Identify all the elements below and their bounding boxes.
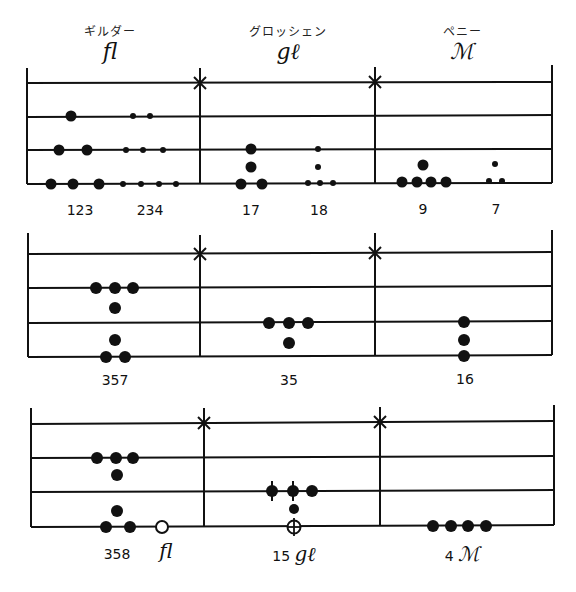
value-label: fl bbox=[126, 539, 206, 563]
groschen-unit-symbol: gℓ bbox=[295, 542, 316, 566]
value-label: 234 bbox=[110, 202, 190, 218]
value-label: 15 gℓ bbox=[254, 542, 334, 566]
value-label: 123 bbox=[40, 202, 120, 218]
value-label: 9 bbox=[383, 201, 463, 217]
value-label: 18 bbox=[279, 202, 359, 218]
open-counter-icon bbox=[156, 521, 168, 533]
counting-boards-diagram bbox=[0, 0, 576, 592]
value-label: 4 ℳ bbox=[422, 542, 502, 566]
value-number: 15 bbox=[272, 548, 290, 564]
value-label: 357 bbox=[75, 372, 155, 388]
value-number: 4 bbox=[445, 548, 454, 564]
board-1 bbox=[27, 65, 552, 184]
value-label: 35 bbox=[249, 372, 329, 388]
gulden-unit-symbol: fl bbox=[159, 539, 172, 563]
crossed-open-counter-icon bbox=[288, 518, 301, 536]
value-label: 16 bbox=[425, 371, 505, 387]
value-label: 7 bbox=[456, 201, 536, 217]
penny-unit-symbol: ℳ bbox=[458, 542, 479, 566]
